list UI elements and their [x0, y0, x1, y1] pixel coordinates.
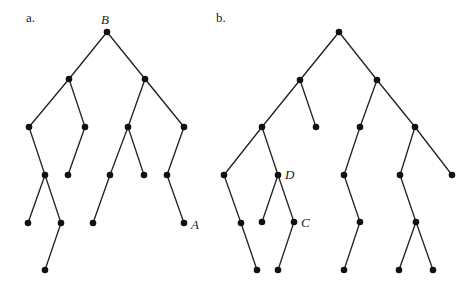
tree-edge	[262, 127, 278, 175]
tree-edge	[110, 127, 128, 175]
tree-node	[396, 267, 403, 274]
tree-node	[297, 77, 304, 84]
tree-edge	[69, 79, 85, 127]
tree-edge	[107, 32, 145, 79]
node-label-a: A	[190, 217, 199, 232]
tree-node	[449, 172, 456, 179]
tree-edge	[339, 32, 377, 80]
panel-a-nodes	[25, 29, 188, 274]
tree-node	[259, 124, 266, 131]
panel-b-node-labels: DC	[284, 167, 310, 230]
tree-node	[341, 267, 348, 274]
tree-edge	[224, 175, 241, 223]
tree-edge	[415, 127, 452, 175]
tree-node-a	[181, 220, 188, 227]
node-label-c: C	[301, 215, 310, 230]
node-label-b: B	[101, 12, 109, 27]
tree-node-c	[291, 219, 298, 226]
tree-node	[125, 124, 132, 131]
tree-edge	[69, 32, 107, 79]
tree-node	[357, 219, 364, 226]
tree-node	[397, 172, 404, 179]
tree-edge	[224, 127, 262, 175]
tree-edge	[416, 222, 433, 270]
panel-a-edges	[28, 32, 184, 270]
tree-node	[26, 124, 33, 131]
tree-edge	[344, 175, 360, 222]
tree-node	[58, 220, 65, 227]
tree-node	[107, 172, 114, 179]
tree-edge	[241, 223, 257, 270]
tree-node	[65, 172, 72, 179]
tree-node	[164, 172, 171, 179]
tree-edge	[29, 127, 45, 175]
panel-b-tree: DC b.	[216, 10, 455, 273]
tree-edge	[300, 80, 316, 127]
panel-b-nodes	[221, 29, 456, 274]
tree-edge	[399, 222, 416, 270]
tree-node	[275, 267, 282, 274]
tree-node	[142, 76, 149, 83]
tree-edge	[278, 175, 294, 222]
tree-node	[254, 267, 261, 274]
panel-b-edges	[224, 32, 452, 270]
tree-edge	[344, 222, 360, 270]
tree-node	[25, 220, 32, 227]
panel-a-label: a.	[26, 10, 35, 25]
tree-node	[313, 124, 320, 131]
tree-edge	[68, 127, 85, 175]
tree-edge	[262, 80, 300, 127]
tree-edge	[344, 127, 360, 175]
tree-node	[42, 267, 49, 274]
tree-edge	[278, 222, 294, 270]
tree-edge	[167, 127, 184, 175]
tree-edge	[360, 80, 377, 127]
tree-node	[82, 124, 89, 131]
tree-node	[181, 124, 188, 131]
tree-node-d	[275, 172, 282, 179]
tree-node-b	[104, 29, 111, 36]
tree-edge	[262, 175, 278, 222]
tree-edge	[28, 175, 45, 223]
tree-edge	[45, 223, 61, 270]
panel-a-tree: BA a.	[25, 10, 199, 273]
tree-node	[90, 220, 97, 227]
tree-edge	[29, 79, 69, 127]
tree-node	[259, 219, 266, 226]
tree-edge	[377, 80, 415, 127]
tree-edge	[128, 127, 144, 175]
tree-node	[430, 267, 437, 274]
tree-edge	[93, 175, 110, 223]
tree-node	[336, 29, 343, 36]
tree-node	[238, 220, 245, 227]
tree-node	[357, 124, 364, 131]
tree-diagram-figure: BA a. DC b.	[0, 0, 473, 286]
panel-a-node-labels: BA	[101, 12, 199, 232]
panel-b-label: b.	[216, 10, 226, 25]
tree-edge	[300, 32, 339, 80]
tree-node	[374, 77, 381, 84]
tree-node	[341, 172, 348, 179]
tree-node	[221, 172, 228, 179]
tree-node	[42, 172, 49, 179]
tree-edge	[145, 79, 184, 127]
tree-edge	[167, 175, 184, 223]
tree-node	[66, 76, 73, 83]
tree-node	[141, 172, 148, 179]
tree-node	[413, 219, 420, 226]
tree-edge	[128, 79, 145, 127]
tree-edge	[400, 127, 415, 175]
tree-node	[412, 124, 419, 131]
tree-edge	[400, 175, 416, 222]
tree-edge	[45, 175, 61, 223]
node-label-d: D	[284, 167, 295, 182]
